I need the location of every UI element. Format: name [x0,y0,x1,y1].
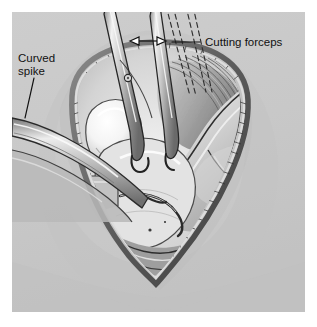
illustration-canvas: Curved spike Cutting forceps [0,0,317,327]
label-cutting-forceps: Cutting forceps [205,36,283,48]
cutting-forceps-label: Cutting forceps [205,36,283,48]
curved-spike-label-line-1: Curved [18,52,55,64]
curved-spike-label-line-2: spike [18,65,45,77]
surgical-illustration-figure: Curved spike Cutting forceps [0,0,317,327]
